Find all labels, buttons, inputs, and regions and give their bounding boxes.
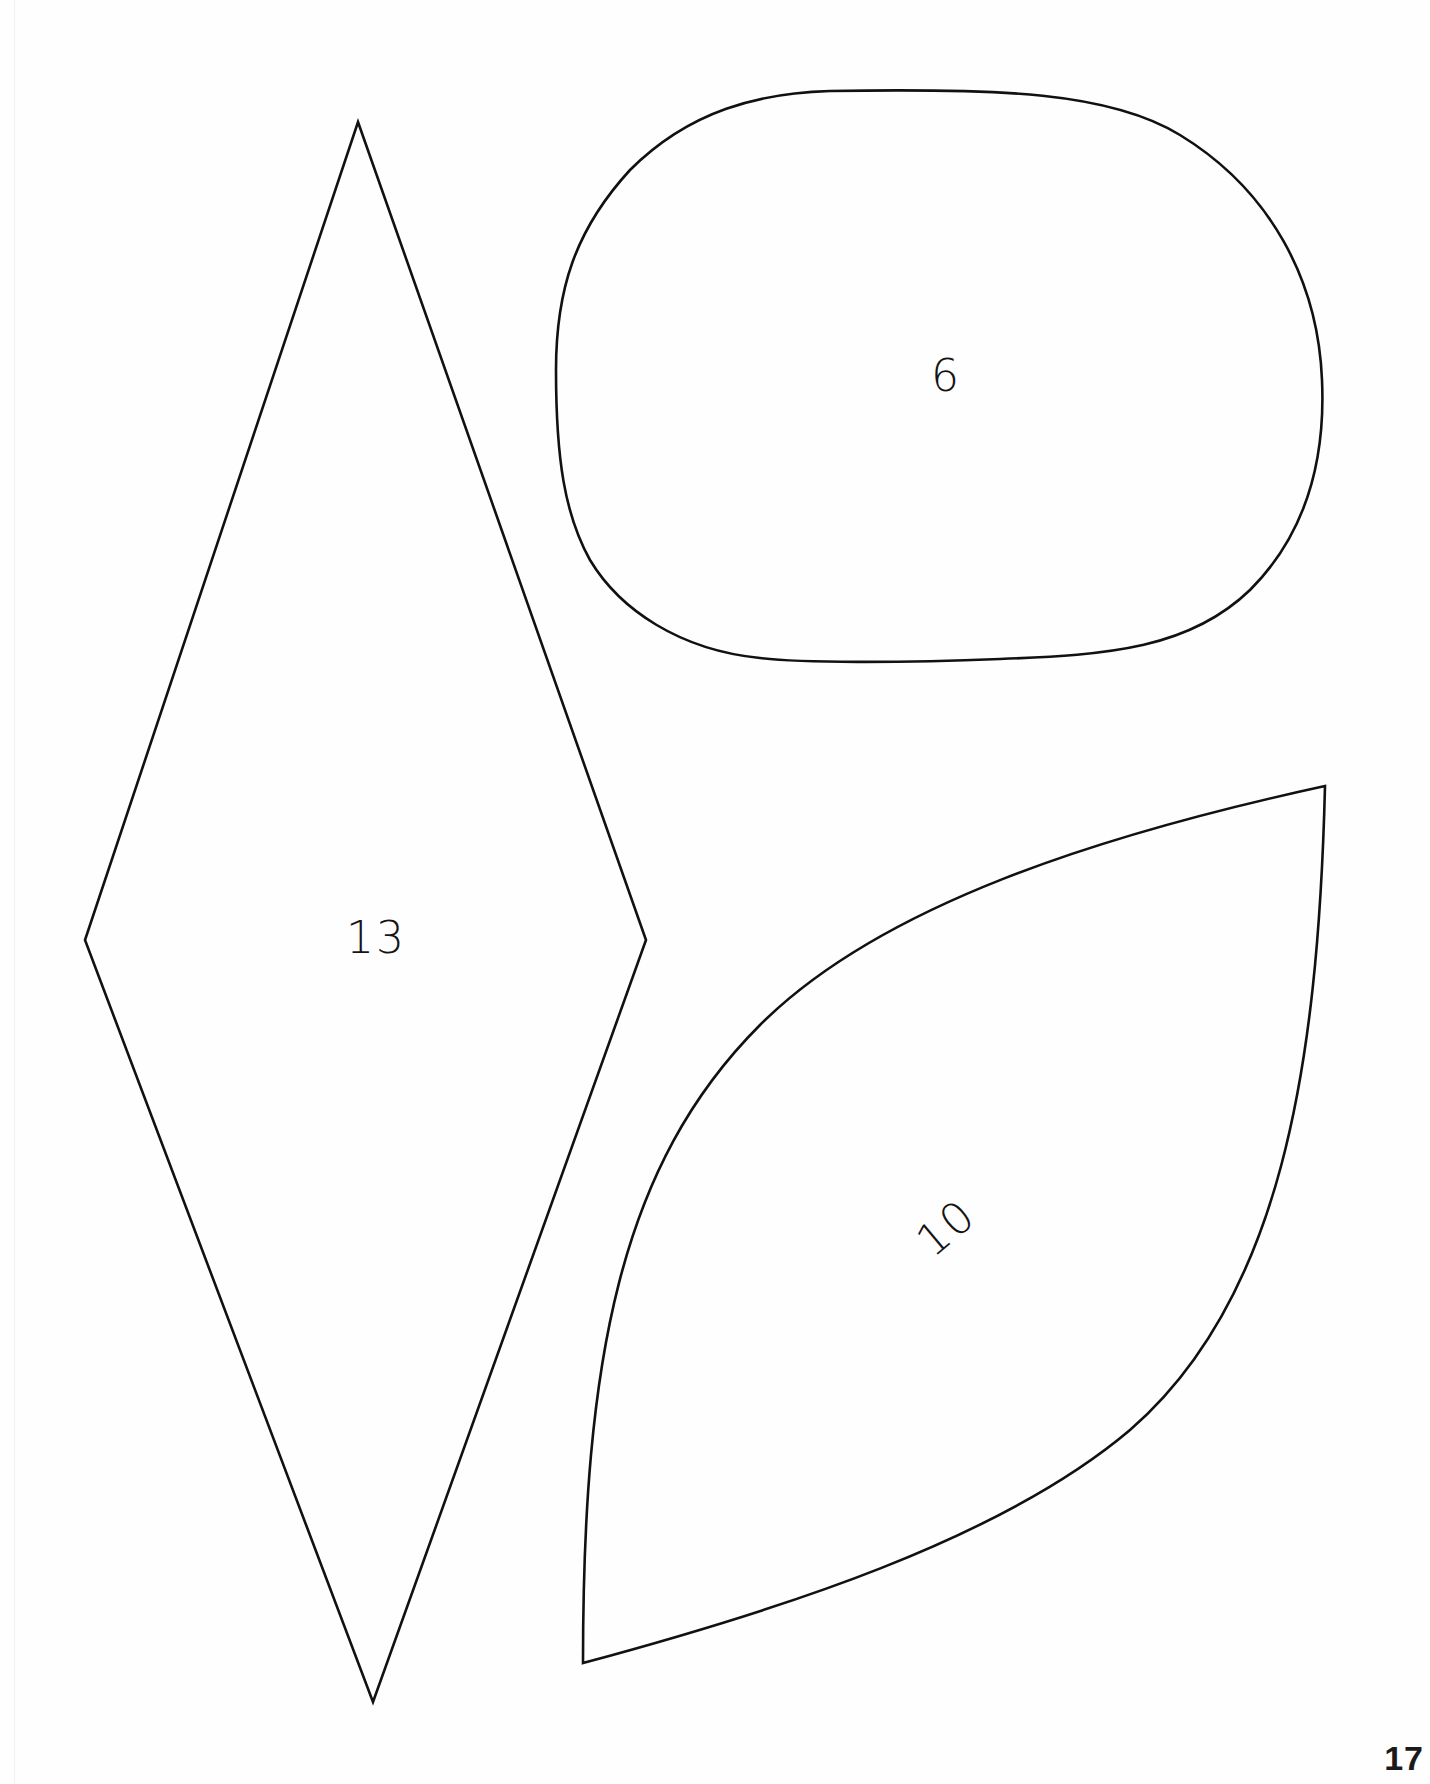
page-number: 17 — [1384, 1739, 1424, 1778]
diamond-piece-number: 13 — [346, 916, 406, 960]
worksheet-page: 13 6 10 17 — [0, 0, 1430, 1784]
oval-piece-number: 6 — [931, 354, 961, 398]
shapes-canvas — [0, 0, 1430, 1784]
